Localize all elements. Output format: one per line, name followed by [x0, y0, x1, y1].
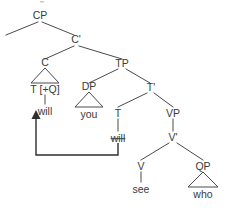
node-tp: TP	[115, 57, 128, 69]
node-c: C	[41, 56, 49, 68]
node-cbar: C'	[71, 33, 81, 45]
node-tbar: T'	[147, 81, 155, 93]
triangle-dp-to-you	[75, 92, 103, 107]
node-t-plus-q: T [+Q]	[30, 83, 59, 95]
branch-cbar-to-c	[45, 46, 74, 59]
terminal-who: who	[192, 188, 212, 200]
top-edge-artifact	[40, 1, 44, 3]
branch-tbar-to-t	[118, 93, 147, 107]
node-qp: QP	[195, 160, 210, 172]
node-cp: CP	[33, 9, 48, 21]
branch-vbar-to-v	[141, 143, 169, 160]
node-v: V	[137, 160, 144, 172]
node-t: T	[115, 107, 122, 119]
branch-tbar-to-vp	[154, 93, 173, 107]
syntax-tree-diagram: CP C' C TP DP T' T [+Q] T VP V' V QP wil…	[0, 0, 227, 211]
branch-cp-to-cbar	[42, 22, 74, 35]
terminal-see: see	[133, 183, 150, 195]
terminal-you: you	[81, 108, 98, 120]
terminal-will-struck: will	[110, 132, 126, 144]
node-vbar: V'	[168, 131, 177, 143]
branch-vbar-to-qp	[177, 143, 203, 160]
node-vp: VP	[166, 107, 180, 119]
node-dp: DP	[82, 80, 97, 92]
triangle-c-to-tq	[31, 68, 59, 83]
triangle-qp-to-who	[188, 172, 218, 187]
tree-canvas: CP C' C TP DP T' T [+Q] T VP V' V QP wil…	[0, 0, 227, 211]
terminal-will-in-c: will	[37, 105, 53, 117]
head-movement-arrow	[36, 117, 118, 155]
branch-cp-to-spec	[6, 22, 38, 35]
